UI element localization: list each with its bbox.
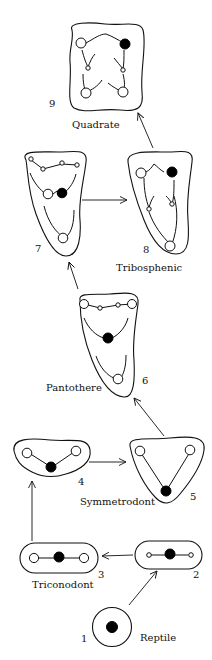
cusp-solid xyxy=(54,552,64,562)
stage-number: 3 xyxy=(98,569,104,580)
stage-label: Reptile xyxy=(140,632,176,643)
cusp-solid xyxy=(107,622,118,633)
cusp-open xyxy=(29,553,38,562)
stage-label: Tribosphenic xyxy=(116,262,183,273)
stage-number: 1 xyxy=(81,633,87,644)
stage-label: Pantothere xyxy=(46,382,102,393)
cusp-open xyxy=(136,168,146,178)
cusp-small xyxy=(116,303,120,307)
stage-number: 9 xyxy=(49,98,55,109)
protocone-cusp xyxy=(120,39,130,49)
stage-number: 8 xyxy=(143,244,149,255)
arrow-5-to-6 xyxy=(134,398,164,436)
cusp-solid xyxy=(57,188,67,198)
stage-1-reptile-tooth xyxy=(93,608,132,647)
cusp-small xyxy=(189,553,194,558)
cusp-open xyxy=(113,374,123,384)
cusp-small xyxy=(60,161,64,165)
stage-8-tribosphenic-tooth xyxy=(128,151,192,254)
stage-number: 6 xyxy=(142,375,148,386)
cusp-open xyxy=(128,300,137,309)
stage-number: 5 xyxy=(190,491,196,502)
arrow-1-to-2 xyxy=(129,571,157,605)
cusp-solid xyxy=(165,549,175,559)
stage-label: Quadrate xyxy=(72,119,120,130)
cusp-open xyxy=(165,241,175,251)
conule-cusp xyxy=(147,207,151,211)
conule-cusp xyxy=(121,68,125,72)
cusp-open xyxy=(185,445,195,455)
metacone-cusp xyxy=(81,88,91,98)
stage-3-triconodont-tooth xyxy=(20,543,98,573)
arrow-6-to-7 xyxy=(69,262,78,289)
stage-number: 4 xyxy=(78,476,84,487)
protocone-cusp xyxy=(167,167,177,177)
cusp-small xyxy=(147,553,152,558)
cusp-solid xyxy=(103,333,113,343)
cusp-open xyxy=(22,448,32,458)
conule-cusp xyxy=(170,202,174,206)
cusp-solid xyxy=(46,462,56,472)
conule-cusp xyxy=(86,66,90,70)
cusp-open xyxy=(80,300,89,309)
stage-number: 7 xyxy=(35,243,41,254)
stage-number: 2 xyxy=(193,569,199,580)
arrow-2-to-3 xyxy=(102,555,133,556)
stage-7-tooth xyxy=(25,151,86,256)
cusp-small xyxy=(29,157,33,161)
stage-9-quadrate-tooth xyxy=(70,23,145,111)
cusp-solid xyxy=(161,486,171,496)
cusp-small xyxy=(98,306,102,310)
evolution-diagram: 9 Quadrate 7 8 Tribosph xyxy=(0,0,212,660)
cusp-small xyxy=(41,167,45,171)
cusp-open xyxy=(71,446,81,456)
hypocone-cusp xyxy=(118,87,128,97)
stage-4-tooth xyxy=(14,439,90,477)
arrow-8-to-9 xyxy=(138,113,153,148)
cusp-open xyxy=(43,189,53,199)
cusp-open xyxy=(79,553,88,562)
stage-label: Triconodont xyxy=(32,579,94,590)
cusp-small xyxy=(75,163,79,167)
stage-2-tooth xyxy=(135,541,202,569)
cusp-open xyxy=(135,446,145,456)
paracone-cusp xyxy=(76,38,86,48)
stage-label: Symmetrodont xyxy=(80,496,155,507)
cusp-open xyxy=(58,233,68,243)
